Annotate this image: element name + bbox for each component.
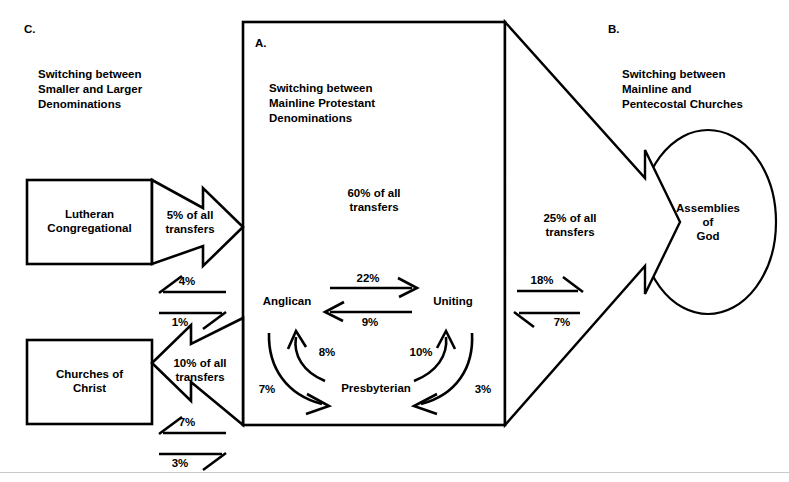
heading-a: A. Switching between Mainline Protestant… (255, 36, 465, 156)
heading-c-text: Switching between Smaller and Larger Den… (38, 67, 214, 112)
page-bottom-rule (0, 472, 789, 473)
assemblies-of-god-label: Assemblies of God (658, 201, 758, 243)
flow-value-presbyterian-to-uniting: 10% (400, 345, 442, 359)
pentecostal-label: 25% of all transfers (524, 211, 616, 239)
diagram-canvas: C. Switching between Smaller and Larger … (0, 0, 789, 482)
flow-value-anglican-to-presbyterian: 7% (250, 382, 284, 396)
flow-value-7pct-right: 7% (545, 315, 579, 329)
flow-value-18pct: 18% (521, 273, 563, 287)
presbyterian-label: Presbyterian (330, 381, 422, 395)
heading-a-marker: A. (255, 36, 267, 51)
heading-a-text: Switching between Mainline Protestant De… (269, 81, 465, 126)
churches-of-christ-label: Churches of Christ (27, 367, 152, 395)
flow-value-uniting-to-anglican: 9% (350, 315, 390, 329)
heading-b-text: Switching between Mainline and Pentecost… (622, 67, 788, 112)
lutheran-congregational-label: Lutheran Congregational (27, 207, 152, 235)
lutheran-inflow-label: 5% of all transfers (148, 208, 232, 236)
flow-value-3pct-right: 3% (163, 456, 197, 470)
anglican-label: Anglican (248, 294, 326, 308)
heading-c-marker: C. (24, 22, 36, 37)
heading-c: C. Switching between Smaller and Larger … (24, 22, 214, 142)
churches-outflow-label: 10% of all transfers (156, 356, 244, 384)
flow-value-anglican-to-uniting: 22% (348, 271, 388, 285)
flow-value-1pct: 1% (163, 315, 197, 329)
center-total-label: 60% of all transfers (314, 186, 434, 214)
flow-value-uniting-to-presbyterian: 3% (466, 382, 500, 396)
heading-b-marker: B. (608, 22, 620, 37)
flow-value-7pct-left: 7% (170, 415, 204, 429)
uniting-label: Uniting (418, 294, 488, 308)
heading-b: B. Switching between Mainline and Pentec… (608, 22, 788, 142)
flow-value-presbyterian-to-anglican: 8% (310, 345, 344, 359)
flow-value-4pct: 4% (170, 274, 204, 288)
